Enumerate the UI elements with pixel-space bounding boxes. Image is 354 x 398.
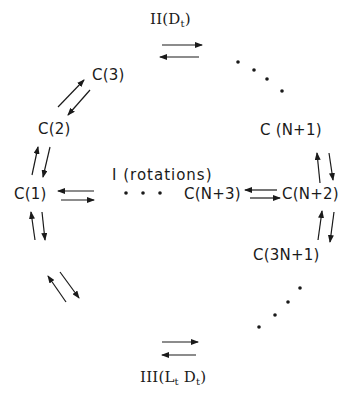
ellipsis-dot <box>141 191 145 195</box>
arrow-cn1-cn2 <box>329 153 333 180</box>
arrow-c2-c3 <box>58 80 84 107</box>
ellipsis-dot <box>265 77 269 81</box>
ellipsis-dot <box>236 60 240 64</box>
group-label-ii: II(Dt) <box>150 12 191 29</box>
arrow-c3n1-cn2 <box>318 211 322 240</box>
arrow-c2-c1 <box>43 147 50 177</box>
node-cn2: C(N+2) <box>282 187 339 202</box>
ellipsis-dot <box>257 325 261 329</box>
node-c3: C(3) <box>92 68 125 83</box>
node-cn3: C(N+3) <box>184 187 241 202</box>
node-c3n1: C(3N+1) <box>253 248 319 263</box>
ellipsis-dot <box>273 313 277 317</box>
ellipsis-dot <box>158 191 162 195</box>
arrow-c2n3-c2n2 <box>48 276 66 302</box>
arrow-c2n2-c1 <box>31 212 35 240</box>
group-label-iii: III(Lt Dt) <box>140 370 206 387</box>
ellipsis-dot <box>298 286 302 290</box>
group-label-rotations: I (rotations) <box>112 168 213 183</box>
arrow-c2n2-c2n3 <box>60 272 79 298</box>
node-c2: C(2) <box>38 122 71 137</box>
ellipsis-dot <box>280 89 284 93</box>
arrow-cn2-c3n1 <box>330 212 334 242</box>
node-c1: C(1) <box>14 187 47 202</box>
arrow-cn2-cn1 <box>317 153 320 183</box>
ellipsis-dot <box>252 68 256 72</box>
node-cn1: C (N+1) <box>260 123 322 138</box>
ellipsis-dot <box>124 191 128 195</box>
arrow-c1-c2n2 <box>42 212 45 240</box>
ellipsis-dot <box>286 300 290 304</box>
conformer-interconversion-diagram: II(Dt) I (rotations) III(Lt Dt) C(3) C(2… <box>0 0 354 398</box>
arrow-c1-c2 <box>32 147 38 175</box>
